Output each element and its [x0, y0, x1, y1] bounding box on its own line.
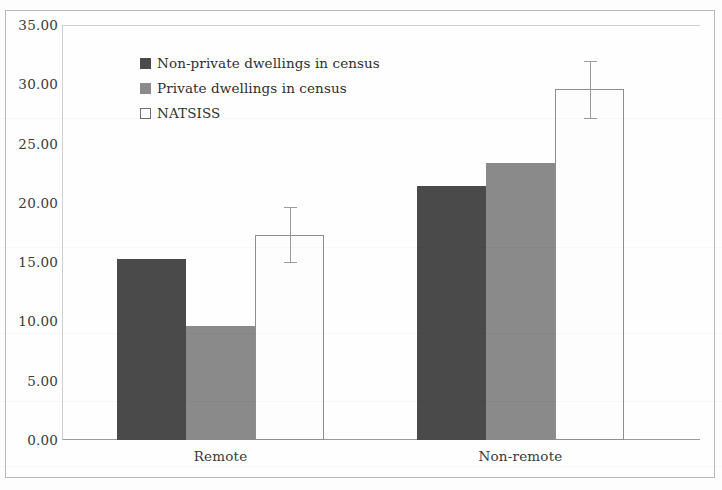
legend-item: Non-private dwellings in census	[140, 55, 380, 71]
x-axis-tick-label: Remote	[194, 448, 248, 464]
chart-figure: 0.005.0010.0015.0020.0025.0030.0035.00 R…	[0, 0, 722, 490]
bar	[117, 259, 186, 440]
error-bar-line	[290, 208, 291, 264]
error-bar-cap	[284, 262, 297, 263]
chart-legend: Non-private dwellings in censusPrivate d…	[140, 55, 380, 121]
y-axis-tick-label: 15.00	[2, 254, 58, 270]
bar	[486, 163, 555, 440]
bar	[555, 89, 624, 440]
error-bar-cap	[584, 118, 597, 119]
bar	[186, 326, 255, 440]
y-axis-tick-label: 5.00	[2, 373, 58, 389]
error-bar-cap	[284, 207, 297, 208]
legend-label: NATSISS	[157, 105, 220, 121]
legend-item: Private dwellings in census	[140, 80, 380, 96]
y-axis: 0.005.0010.0015.0020.0025.0030.0035.00	[0, 25, 58, 440]
bar	[417, 186, 486, 440]
error-bar-line	[590, 62, 591, 119]
y-axis-tick-label: 0.00	[2, 432, 58, 448]
legend-swatch-icon	[140, 108, 151, 119]
y-axis-tick-label: 35.00	[2, 17, 58, 33]
x-axis: RemoteNon-remote	[62, 448, 700, 476]
legend-swatch-icon	[140, 83, 151, 94]
x-axis-tick-label: Non-remote	[479, 448, 563, 464]
y-axis-tick-label: 25.00	[2, 136, 58, 152]
bar-group	[417, 25, 624, 440]
bar	[255, 235, 324, 440]
y-axis-tick-label: 30.00	[2, 76, 58, 92]
y-axis-tick-label: 20.00	[2, 195, 58, 211]
legend-item: NATSISS	[140, 105, 380, 121]
error-bar-cap	[584, 61, 597, 62]
y-axis-tick-label: 10.00	[2, 313, 58, 329]
legend-swatch-icon	[140, 58, 151, 69]
legend-label: Private dwellings in census	[157, 80, 347, 96]
legend-label: Non-private dwellings in census	[157, 55, 380, 71]
